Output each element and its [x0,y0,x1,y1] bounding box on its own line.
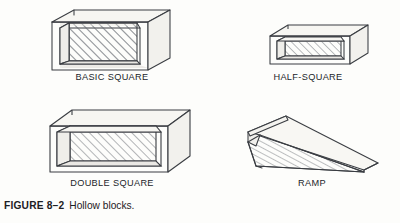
double-square-drawing [26,104,198,178]
figure-illustration-area: BASIC SQUARE [0,0,400,196]
half-square-drawing [232,6,384,72]
block-label-basic-square: BASIC SQUARE [38,72,186,82]
block-label-ramp: RAMP [232,178,392,188]
block-label-half-square: HALF-SQUARE [232,72,384,82]
basic-square-drawing [38,6,186,72]
block-double-square: DOUBLE SQUARE [26,104,198,196]
double-square-hatch [57,126,161,166]
figure-caption-text: Hollow blocks. [69,200,134,211]
figure-page: BASIC SQUARE [0,0,400,223]
block-label-double-square: DOUBLE SQUARE [26,178,198,188]
block-basic-square: BASIC SQUARE [38,6,186,94]
half-square-hatch [277,37,344,59]
block-half-square: HALF-SQUARE [232,6,384,94]
figure-caption: FIGURE 8–2Hollow blocks. [4,200,396,211]
block-ramp: RAMP [232,104,392,196]
figure-caption-number: FIGURE 8–2 [4,200,64,211]
basic-square-hatch [60,23,140,64]
ramp-drawing [232,104,392,178]
